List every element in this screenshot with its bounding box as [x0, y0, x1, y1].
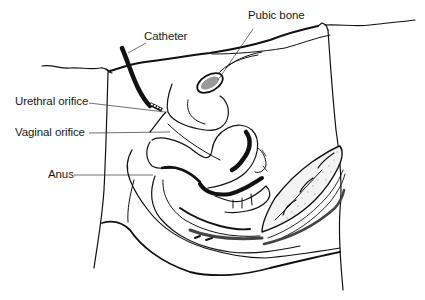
abdominal-wall-contour [110, 26, 318, 71]
vaginal-orifice-leader [89, 132, 170, 133]
label-catheter: Catheter [144, 31, 187, 43]
label-urethral-orifice: Urethral orifice [15, 96, 88, 108]
left-cut-edge [94, 72, 108, 268]
skin-outline-left [42, 66, 110, 71]
catheter-leader [128, 43, 146, 53]
rectum-wall [200, 178, 262, 195]
vagina-outline [152, 125, 258, 188]
anatomy-diagram: Catheter Pubic bone Urethral orifice Vag… [0, 0, 425, 300]
catheter-tube [122, 48, 162, 110]
pelvis-illustration [0, 0, 425, 300]
label-anus: Anus [48, 169, 74, 181]
skin-outline-right [325, 20, 415, 26]
pubic-bone-leader [218, 29, 253, 80]
label-vaginal-orifice: Vaginal orifice [15, 127, 85, 139]
label-pubic-bone: Pubic bone [248, 10, 305, 22]
